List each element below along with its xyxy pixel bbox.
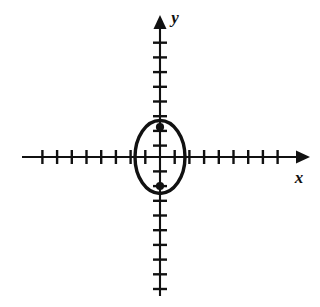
ellipse-figure: x y bbox=[0, 0, 320, 307]
y-axis-group bbox=[153, 15, 167, 296]
x-axis-group bbox=[22, 150, 310, 164]
y-axis-label: y bbox=[169, 8, 179, 27]
focus-point-lower bbox=[156, 182, 164, 190]
y-axis-arrow-icon bbox=[154, 15, 167, 29]
focus-point-upper bbox=[156, 123, 164, 131]
x-axis-arrow-icon bbox=[296, 151, 310, 164]
coordinate-plane-plot: x y bbox=[0, 0, 320, 307]
x-axis-label: x bbox=[294, 168, 304, 187]
